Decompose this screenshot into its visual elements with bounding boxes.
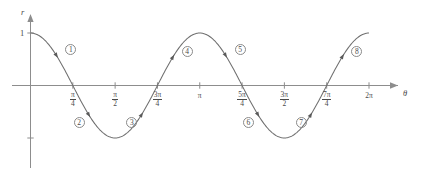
y-axis-arrowhead xyxy=(27,14,33,22)
label-tick-3pi-over-2: 3π2 xyxy=(270,91,298,108)
label-tick-3pi-over-4: 3π4 xyxy=(143,91,171,108)
x-axis-label: θ xyxy=(403,88,407,98)
fraction-denominator: 2 xyxy=(112,100,118,108)
direction-arrow-7 xyxy=(308,113,312,118)
label-tick-2pi: 2π xyxy=(355,92,383,100)
plot-canvas xyxy=(0,0,421,176)
fraction-denominator: 4 xyxy=(237,100,247,108)
fraction-denominator: 4 xyxy=(153,100,163,108)
direction-arrow-4 xyxy=(170,55,174,60)
label-tick-pi: π xyxy=(186,92,214,100)
segment-5-marker: 5 xyxy=(235,44,246,55)
label-tick-pi-over-2: π2 xyxy=(101,91,129,108)
y-axis-value-one: 1 xyxy=(20,28,24,38)
segment-8-marker: 8 xyxy=(351,46,362,57)
segment-7-marker: 7 xyxy=(296,117,307,128)
direction-arrow-5 xyxy=(223,52,227,57)
y-axis-label: r xyxy=(21,7,24,17)
label-tick-7pi-over-4: 7π4 xyxy=(313,91,341,108)
direction-arrow-8 xyxy=(340,54,344,59)
segment-4-marker: 4 xyxy=(182,46,193,57)
segment-6-marker: 6 xyxy=(243,117,254,128)
fraction-denominator: 4 xyxy=(70,100,76,108)
segment-2-marker: 2 xyxy=(74,117,85,128)
direction-arrow-3 xyxy=(139,112,143,117)
direction-arrow-1 xyxy=(53,52,57,57)
figure-container: r θ 1 π4π23π4π5π43π27π42π 12345678 xyxy=(0,0,421,176)
label-tick-pi-over-4: π4 xyxy=(59,91,87,108)
label-tick-5pi-over-4: 5π4 xyxy=(228,91,256,108)
direction-arrow-2 xyxy=(86,112,90,117)
fraction-denominator: 2 xyxy=(280,100,290,108)
fraction-denominator: 4 xyxy=(322,100,332,108)
x-axis-arrowhead xyxy=(390,82,398,88)
direction-arrow-6 xyxy=(255,111,259,116)
